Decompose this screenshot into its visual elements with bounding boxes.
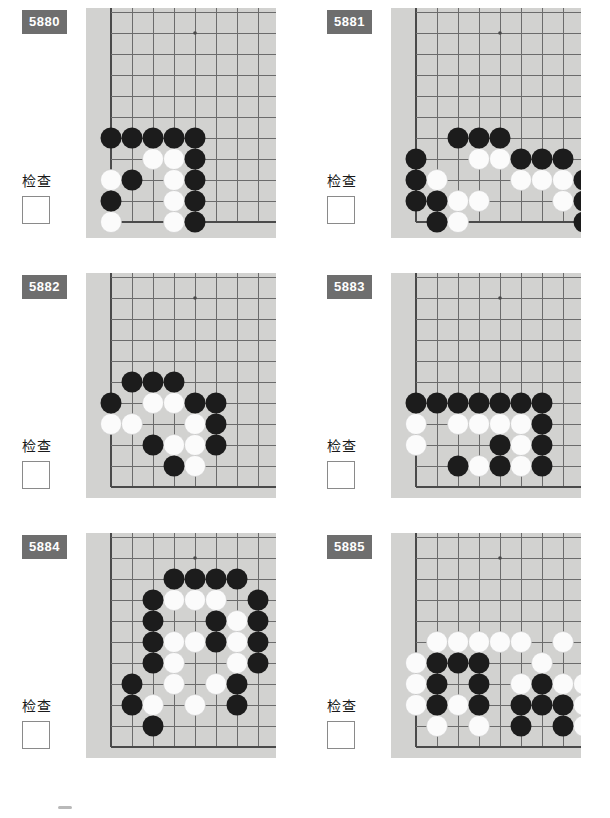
white-stone (553, 191, 574, 212)
white-stone (427, 632, 448, 653)
check-block: 检查 (22, 695, 84, 749)
problem-header: 5880 (22, 10, 84, 34)
black-stone (532, 695, 553, 716)
problem-number-badge: 5880 (22, 10, 67, 34)
black-stone (164, 372, 185, 393)
check-checkbox[interactable] (327, 196, 355, 224)
black-stone (143, 716, 164, 737)
white-stone (206, 590, 227, 611)
white-stone (469, 716, 490, 737)
black-stone (532, 149, 553, 170)
white-stone (511, 632, 532, 653)
check-label: 检查 (22, 695, 84, 715)
black-stone (448, 653, 469, 674)
black-stone (185, 569, 206, 590)
check-block: 检查 (327, 695, 389, 749)
black-stone (143, 632, 164, 653)
white-stone (185, 632, 206, 653)
problem-5880: 5880检查 (0, 0, 305, 265)
white-stone (122, 414, 143, 435)
check-checkbox[interactable] (22, 196, 50, 224)
white-stone (469, 191, 490, 212)
black-stone (122, 674, 143, 695)
problem-5885: 5885检查 (305, 525, 610, 783)
white-stone (185, 414, 206, 435)
white-stone (511, 674, 532, 695)
check-checkbox[interactable] (22, 461, 50, 489)
black-stone (490, 128, 511, 149)
white-stone (469, 149, 490, 170)
white-stone (164, 191, 185, 212)
white-stone (164, 435, 185, 456)
check-checkbox[interactable] (327, 721, 355, 749)
black-stone (185, 149, 206, 170)
black-stone (427, 695, 448, 716)
black-stone (490, 435, 511, 456)
black-stone (143, 611, 164, 632)
black-stone (532, 674, 553, 695)
white-stone (185, 590, 206, 611)
white-stone (101, 170, 122, 191)
problem-number-badge: 5881 (327, 10, 372, 34)
black-stone (101, 191, 122, 212)
problem-5881: 5881检查 (305, 0, 610, 265)
go-board[interactable] (86, 8, 276, 238)
black-stone (248, 653, 269, 674)
black-stone (143, 590, 164, 611)
black-stone (122, 372, 143, 393)
footer-mark (58, 806, 72, 809)
white-stone (511, 170, 532, 191)
white-stone (164, 393, 185, 414)
white-stone (206, 674, 227, 695)
black-stone (227, 674, 248, 695)
black-stone (427, 212, 448, 233)
go-board[interactable] (391, 533, 581, 758)
white-stone (164, 674, 185, 695)
black-stone (427, 653, 448, 674)
black-stone (164, 569, 185, 590)
black-stone (206, 632, 227, 653)
black-stone (469, 653, 490, 674)
white-stone (448, 695, 469, 716)
white-stone (143, 393, 164, 414)
go-problem-worksheet: 5880检查5881检查5882检查5883检查5884检查5885检查 (0, 0, 610, 818)
black-stone (206, 414, 227, 435)
white-stone (511, 414, 532, 435)
white-stone (511, 456, 532, 477)
black-stone (532, 414, 553, 435)
black-stone (206, 393, 227, 414)
check-block: 检查 (22, 170, 84, 224)
black-stone (427, 191, 448, 212)
white-stone (101, 212, 122, 233)
problem-number-badge: 5885 (327, 535, 372, 559)
check-label: 检查 (327, 435, 389, 455)
check-block: 检查 (327, 435, 389, 489)
black-stone (553, 695, 574, 716)
problem-5882: 5882检查 (0, 265, 305, 525)
white-stone (553, 674, 574, 695)
go-board[interactable] (391, 8, 581, 238)
check-label: 检查 (327, 170, 389, 190)
black-stone (511, 716, 532, 737)
check-checkbox[interactable] (327, 461, 355, 489)
black-stone (469, 674, 490, 695)
black-stone (469, 128, 490, 149)
white-stone (406, 695, 427, 716)
white-stone (553, 170, 574, 191)
black-stone (490, 456, 511, 477)
white-stone (164, 632, 185, 653)
black-stone (532, 393, 553, 414)
check-block: 检查 (327, 170, 389, 224)
go-board[interactable] (86, 533, 276, 758)
check-checkbox[interactable] (22, 721, 50, 749)
black-stone (448, 393, 469, 414)
black-stone (227, 695, 248, 716)
go-board[interactable] (86, 273, 276, 498)
white-stone (532, 170, 553, 191)
white-stone (490, 414, 511, 435)
problem-header: 5884 (22, 535, 84, 559)
go-board[interactable] (391, 273, 581, 498)
white-stone (227, 653, 248, 674)
black-stone (511, 149, 532, 170)
black-stone (427, 393, 448, 414)
